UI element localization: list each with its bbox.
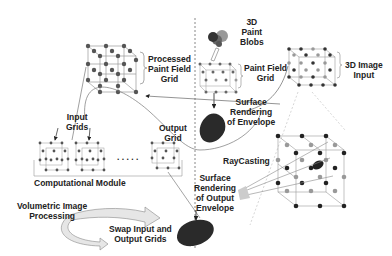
label-surface-rendering-output: Surface Rendering of Output Envelope	[194, 173, 236, 213]
input-grid-1-icon	[40, 143, 68, 170]
output-grid-icon	[152, 143, 179, 168]
label-computational-module: Computational Module	[34, 178, 126, 188]
label-line: Swap Input and	[109, 224, 172, 234]
label-line: Processed	[148, 54, 191, 64]
label-input-grids: Input Grids	[66, 112, 88, 132]
label-line: Grids	[66, 122, 88, 132]
label-line: Envelope	[194, 203, 236, 213]
raycasting-cube-nodes	[276, 134, 347, 209]
input-grid-2-icon	[76, 143, 104, 170]
bracket-processed	[140, 52, 147, 84]
eye-wedge-icon	[238, 186, 250, 200]
paint-field-grid-icon	[200, 64, 236, 92]
label-line: of Output	[194, 193, 236, 203]
label-line: of Envelope	[227, 117, 275, 127]
label-3d-paint-blobs: 3D Paint Blobs	[240, 17, 264, 47]
label-surface-rendering-envelope: Surface Rendering of Envelope	[227, 97, 275, 127]
label-line: Blobs	[240, 37, 264, 47]
label-line: Paint Field	[148, 64, 191, 74]
label-line: Grid	[244, 73, 287, 83]
blob-to-grid-arrow	[211, 48, 219, 61]
label-line: Surface	[194, 173, 236, 183]
label-raycasting: RayCasting	[223, 156, 270, 166]
label-ellipsis: . . . . .	[117, 152, 138, 162]
paint-blobs-icon	[208, 30, 228, 47]
label-line: Input	[66, 112, 88, 122]
bracket-image-input	[337, 52, 342, 78]
label-volumetric-image-processing: Volumetric Image Processing	[17, 201, 87, 221]
label-line: Output	[159, 123, 187, 133]
image-input-grid-icon	[289, 49, 335, 85]
bracket-paint-field	[238, 64, 243, 88]
label-paint-field-grid: Paint Field Grid	[244, 63, 287, 83]
label-line: Paint Field	[244, 63, 287, 73]
label-line: Input	[345, 70, 383, 80]
label-line: Grid	[148, 74, 191, 84]
label-line: Rendering	[194, 183, 236, 193]
label-line: Grid	[159, 133, 187, 143]
label-processed-paint-field-grid: Processed Paint Field Grid	[148, 54, 191, 84]
label-line: 3D Image	[345, 60, 383, 70]
label-line: 3D	[240, 17, 264, 27]
label-swap-grids: Swap Input and Output Grids	[109, 224, 172, 244]
label-line: Volumetric Image	[17, 201, 87, 211]
label-output-grid: Output Grid	[159, 123, 187, 143]
label-line: Processing	[17, 211, 87, 221]
paint-field-grid-nodes	[199, 63, 238, 94]
label-line: Rendering	[227, 107, 275, 117]
label-line: Surface	[227, 97, 275, 107]
label-3d-image-input: 3D Image Input	[345, 60, 383, 80]
output-envelope-blob-icon	[177, 220, 214, 246]
label-line: Output Grids	[109, 234, 172, 244]
label-line: Paint	[240, 27, 264, 37]
envelope-blob-icon	[200, 114, 226, 143]
